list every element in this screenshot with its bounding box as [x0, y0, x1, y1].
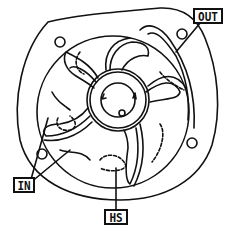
inner-chamber — [37, 36, 189, 188]
mounting-hole — [187, 138, 197, 148]
hub-mid — [90, 72, 146, 128]
hs-label: HS — [104, 209, 128, 225]
shaft-key — [119, 110, 125, 116]
out-label-text: OUT — [198, 9, 218, 24]
flow-arrow — [52, 92, 70, 110]
out-label: OUT — [193, 8, 223, 24]
mounting-hole — [177, 29, 187, 39]
hub-inner — [101, 83, 135, 117]
pump-diagram — [0, 0, 228, 234]
out-leader-line — [176, 22, 201, 52]
hub-outer — [87, 69, 149, 131]
in-label-text: IN — [17, 178, 30, 193]
mounting-hole — [55, 37, 65, 47]
in-label: IN — [13, 177, 35, 193]
impeller-vanes — [44, 38, 186, 186]
hs-label-text: HS — [109, 210, 122, 225]
